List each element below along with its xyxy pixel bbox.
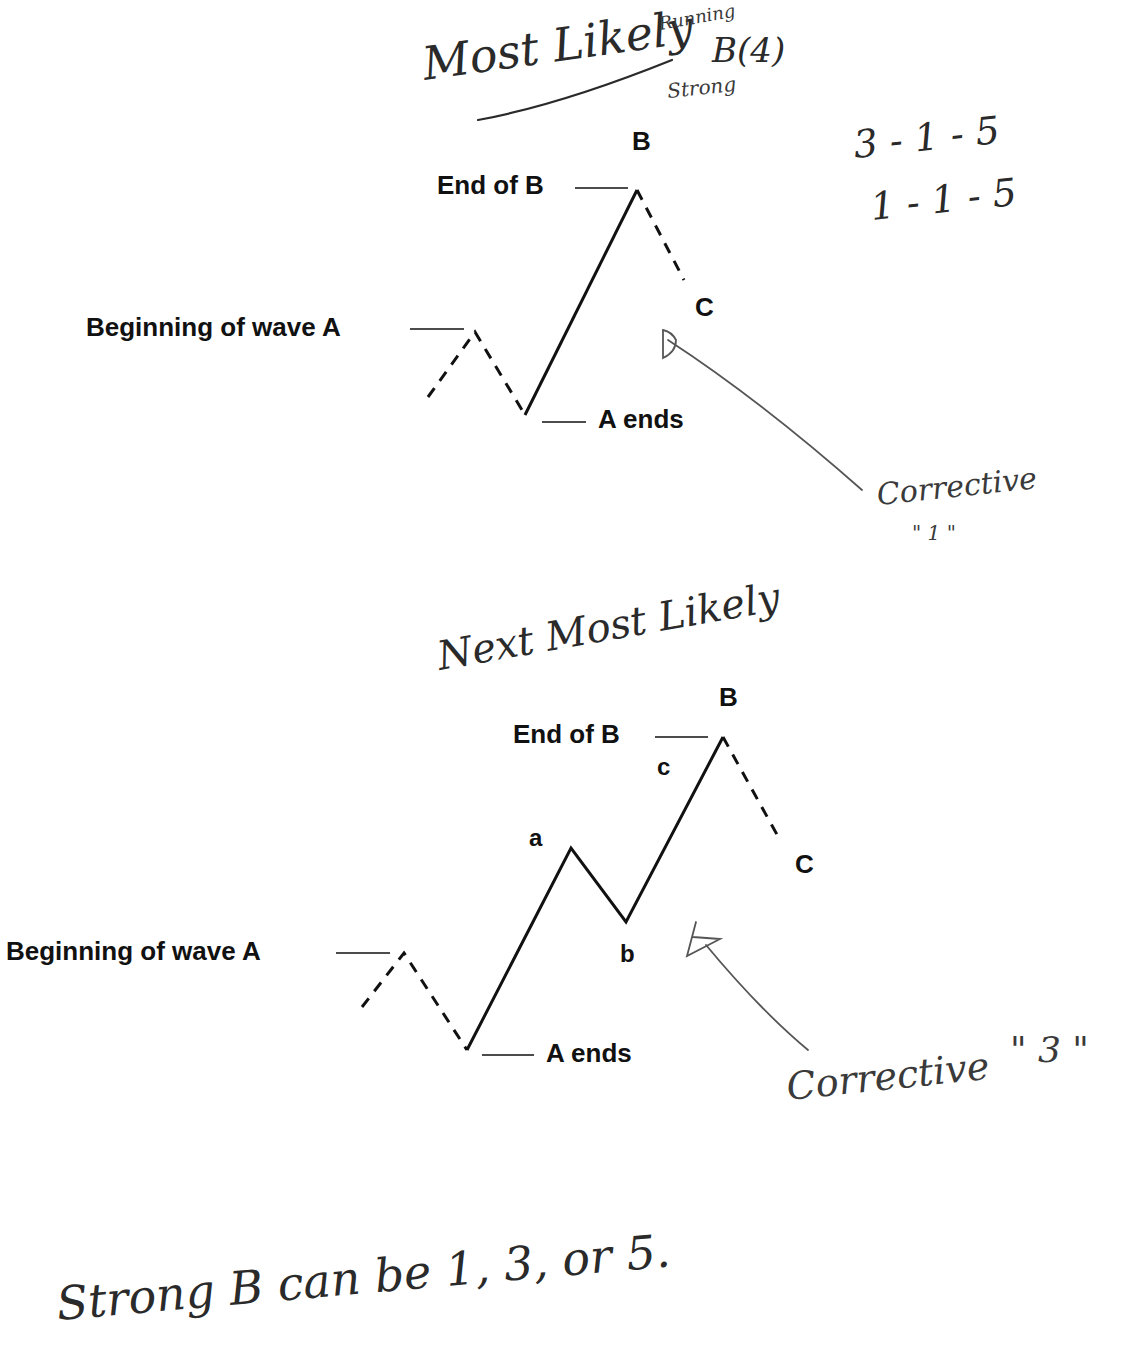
b4-label: B(4)	[711, 30, 785, 70]
wave-a-dashed	[362, 953, 467, 1050]
beginning-of-wave-a-label: Beginning of wave A	[86, 312, 341, 342]
wave-c-label: C	[695, 292, 714, 322]
wave-a-dashed	[428, 332, 525, 415]
beginning-of-wave-a-label: Beginning of wave A	[6, 936, 261, 966]
annotation-arrow-line	[668, 340, 862, 490]
side-note-line-2: 1 - 1 - 5	[868, 170, 1018, 229]
corrective-3-note: Corrective	[784, 1044, 991, 1109]
wave-diagram-page: Most Likely Running Strong B(4) 3 - 1 - …	[0, 0, 1124, 1353]
corrective-1-note: Corrective	[875, 460, 1038, 512]
side-notes: 3 - 1 - 5 1 - 1 - 5	[851, 108, 1018, 229]
wave-b-zigzag-solid	[467, 737, 723, 1050]
end-of-b-label: End of B	[513, 719, 620, 749]
arrowhead-icon	[687, 922, 720, 956]
peak-label-b: B	[719, 682, 738, 712]
a-ends-label: A ends	[598, 404, 684, 434]
header-annotation: Most Likely Running Strong B(4)	[418, 0, 785, 120]
next-most-likely-note: Next Most Likely	[433, 573, 785, 679]
diagram-2-zigzag-b-wave: B End of B c a b C Beginning of wave A A…	[6, 682, 1089, 1109]
a-ends-label: A ends	[546, 1038, 632, 1068]
end-of-b-label: End of B	[437, 170, 544, 200]
most-likely-note: Most Likely	[418, 0, 697, 91]
sub-wave-c-label: c	[657, 753, 670, 780]
corrective-1-sub: " 1 "	[912, 521, 956, 545]
sub-wave-b-label: b	[620, 940, 635, 967]
side-note-line-1: 3 - 1 - 5	[851, 108, 1001, 167]
wave-c-dashed	[637, 190, 684, 280]
sub-wave-a-label: a	[529, 824, 543, 851]
peak-label-b: B	[632, 126, 651, 156]
strong-note: Strong	[666, 72, 737, 103]
annotation-arrow-line	[706, 945, 808, 1050]
wave-c-label: C	[795, 849, 814, 879]
strong-b-note: Strong B can be 1, 3, or 5.	[54, 1223, 672, 1330]
wave-b-solid	[525, 190, 637, 415]
corrective-3-quote: " 3 "	[1010, 1029, 1089, 1070]
wave-c-dashed	[723, 737, 780, 840]
